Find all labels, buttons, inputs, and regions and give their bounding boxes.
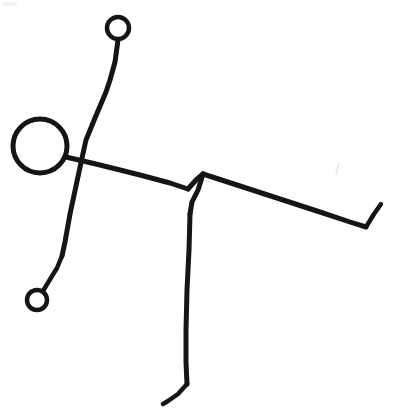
paper-background [0, 0, 393, 414]
corner-smudge-mark [3, 2, 17, 6]
stick-figure-drawing [0, 0, 393, 414]
sketch-canvas [0, 0, 393, 414]
